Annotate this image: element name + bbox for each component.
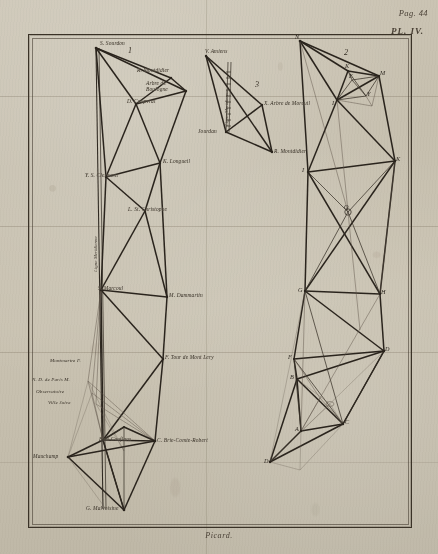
station-label-ville-juive: Ville Juive [48,400,71,406]
vertex-label-f: F [288,353,292,360]
station-label-marcoul: S. Marcoul [98,285,123,291]
station-label-arbre-de-moreuil: X. Arbre de Moreuil [264,100,310,106]
vertex-label-k2: K [396,155,400,162]
meridian-line-label-fig1: Ligne Meridienne [93,236,98,272]
engraver-signature: Picard. [0,531,438,540]
vertex-label-b: B [290,373,294,380]
vertex-label-i2: I [302,166,304,173]
station-label-montmartre: Montmartre F. [50,358,81,364]
station-label-montdidier: R. Montdidier [137,67,169,73]
station-label-notre-dame-de-paris: N. D. de Paris M. [32,377,70,383]
vertex-label-i1: I [332,99,334,106]
figure-number-3: 3 [255,80,259,89]
vertex-label-n: N [295,33,299,40]
figure-number-1: 1 [128,46,132,55]
station-label-amiens: V. Amiens [205,48,227,54]
station-label-bois-conflans: Bois Conflans [99,436,131,442]
vertex-label-d1: D [385,345,389,352]
station-label-montdidier-fig3: R. Montdidier [274,148,306,154]
vertex-label-q: Q [344,203,348,210]
vertex-label-d2: D [264,457,268,464]
station-label-arbre-de-boulogne: Arbre de Boulogne [146,80,180,92]
engraving-plate: Pag. 44 PL. IV. .m { stroke:#2a241d; str… [0,0,438,554]
vertex-label-a: A [295,425,299,432]
station-label-longueil: K. Longueil [163,158,190,164]
triangulation-diagram: .m { stroke:#2a241d; stroke-width:1.5; f… [0,0,438,554]
vertex-label-k1: K [345,62,349,69]
station-label-brie-comte-robert: C. Brie-Comte-Robert [157,437,208,443]
station-label-sourdon: S. Sourdon [100,40,125,46]
vertex-label-h: H [381,288,385,295]
vertex-label-e: E [349,72,353,79]
station-label-tour-de-montlery: F. Tour de Mont Lery [165,354,214,360]
figure-number-2: 2 [344,48,348,57]
station-label-observatoire: Observatoire [36,389,64,395]
vertex-label-y: Y [367,90,370,97]
station-label-jourdan: Jourdan [198,128,217,134]
station-label-malvoisine: G. Malvoisine [86,505,119,511]
station-label-st-christophe: L. St. Christophe [128,206,167,212]
station-label-mauchamp: Mauchamp [33,453,58,459]
station-label-dammartin: M. Dammartin [169,292,203,298]
vertex-label-c: C [345,418,349,425]
meridian-line-label-fig3: Ligne Meridienne [224,90,229,126]
station-label-coupvrai: D. Coupvrai [127,98,156,104]
vertex-label-g: G [298,286,302,293]
vertex-label-m: M [380,69,385,76]
station-label-clermont: Y. S. Clermont [85,172,118,178]
